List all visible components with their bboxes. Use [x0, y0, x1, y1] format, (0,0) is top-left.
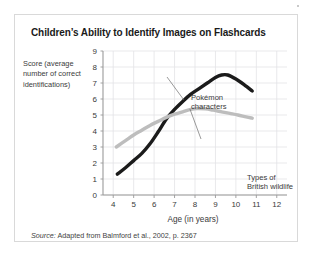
svg-text:0: 0	[93, 191, 98, 200]
figure-card: Children’s Ability to Identify Images on…	[14, 14, 298, 242]
svg-text:10: 10	[231, 200, 240, 209]
svg-text:3: 3	[93, 143, 98, 152]
svg-text:5: 5	[93, 111, 98, 120]
svg-text:4: 4	[111, 200, 116, 209]
svg-text:2: 2	[93, 159, 98, 168]
data-series	[116, 75, 252, 175]
svg-text:8: 8	[193, 200, 198, 209]
series-label-pokemon: Pokémon characters	[191, 93, 226, 112]
svg-text:6: 6	[93, 95, 98, 104]
source-note: Source: Adapted from Balmford et al., 20…	[31, 231, 289, 240]
corner-speck	[297, 5, 299, 7]
page-title: Children’s Ability to Identify Images on…	[31, 27, 289, 39]
svg-text:6: 6	[152, 200, 157, 209]
x-axis-tick-labels: 456789101112	[111, 200, 282, 209]
series-label-wildlife-line2: British wildlife	[247, 182, 293, 191]
svg-text:5: 5	[131, 200, 136, 209]
svg-text:4: 4	[93, 127, 98, 136]
x-axis-label: Age (in years)	[103, 215, 283, 224]
svg-text:9: 9	[213, 200, 218, 209]
svg-text:7: 7	[93, 79, 98, 88]
series-label-pokemon-line2: characters	[191, 102, 226, 111]
source-note-lead: Source:	[31, 231, 56, 240]
series-label-wildlife-line1: Types of	[247, 173, 293, 182]
svg-text:7: 7	[172, 200, 177, 209]
svg-text:11: 11	[252, 200, 261, 209]
svg-text:9: 9	[93, 47, 98, 56]
svg-text:1: 1	[93, 175, 98, 184]
series-label-wildlife: Types of British wildlife	[247, 173, 293, 192]
plot-area: 0123456789 456789101112 Pokémon characte…	[73, 43, 293, 223]
series-label-pokemon-line1: Pokémon	[191, 93, 226, 102]
line-chart-svg: 0123456789 456789101112	[73, 43, 293, 223]
svg-text:8: 8	[93, 63, 98, 72]
source-note-text: Adapted from Balmford et al., 2002, p. 2…	[56, 231, 197, 240]
y-axis-tick-labels: 0123456789	[93, 47, 98, 200]
svg-text:12: 12	[272, 200, 281, 209]
